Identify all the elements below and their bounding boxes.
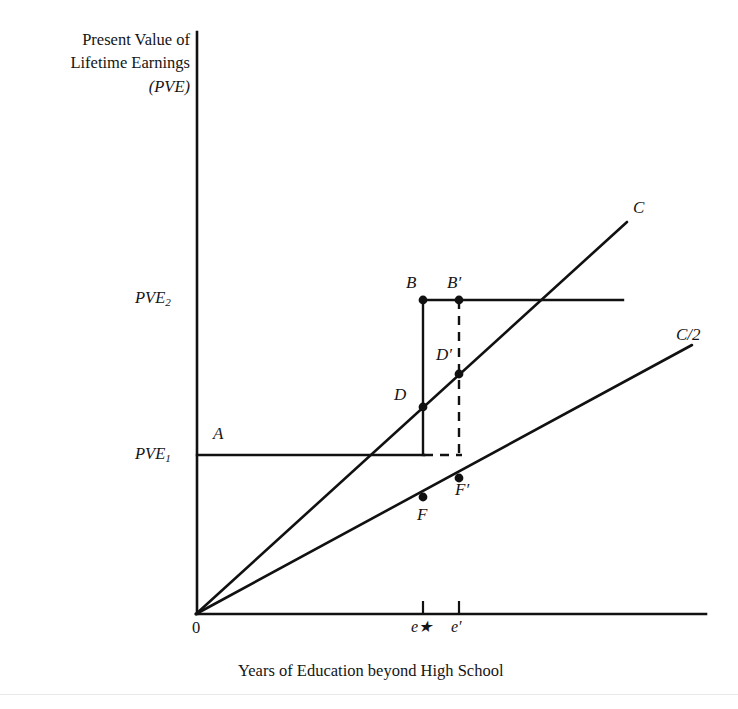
y-axis-title-line3: (PVE) (149, 77, 190, 96)
y-value-label-pve1: PVE1 (135, 444, 171, 463)
x-tick-label-e-star: e★ (411, 618, 432, 637)
x-axis-title: Years of Education beyond High School (238, 661, 504, 680)
point-label-B: B (406, 273, 416, 293)
y-value-label-pve2: PVE2 (135, 288, 171, 307)
y-axis-title: Present Value of Lifetime Earnings (PVE) (30, 28, 190, 98)
y-axis-title-line2: Lifetime Earnings (70, 53, 190, 72)
point-marker-D (419, 403, 428, 412)
pve1-base: PVE (135, 444, 165, 463)
pve2-schedule (423, 300, 623, 455)
point-label-D: D (394, 385, 406, 405)
diagram-canvas (0, 0, 738, 709)
point-marker-F (419, 493, 428, 502)
point-marker-Bprime (455, 296, 464, 305)
pve2-base: PVE (135, 288, 165, 307)
point-marker-Dprime (455, 370, 464, 379)
y-axis-title-line1: Present Value of (82, 30, 190, 49)
pve2-subscript: 2 (165, 296, 171, 308)
footer-divider (0, 694, 738, 695)
point-label-A: A (213, 424, 223, 444)
pve1-subscript: 1 (165, 452, 171, 464)
x-tick-label-e-prime: e′ (451, 618, 462, 637)
point-markers (419, 296, 464, 502)
line-c-half-segment (196, 345, 692, 614)
point-label-F-prime: F′ (455, 480, 469, 500)
curve-label-c: C (633, 198, 644, 218)
point-label-D-prime: D′ (436, 345, 452, 365)
origin-label: 0 (192, 618, 200, 637)
point-label-F: F (417, 505, 427, 525)
point-marker-B (419, 296, 428, 305)
point-label-B-prime: B′ (447, 273, 461, 293)
axes-group (196, 32, 706, 614)
curve-line-c-half (196, 345, 692, 614)
curve-label-c-half: C/2 (676, 325, 701, 345)
figure-root: Present Value of Lifetime Earnings (PVE)… (0, 0, 738, 709)
